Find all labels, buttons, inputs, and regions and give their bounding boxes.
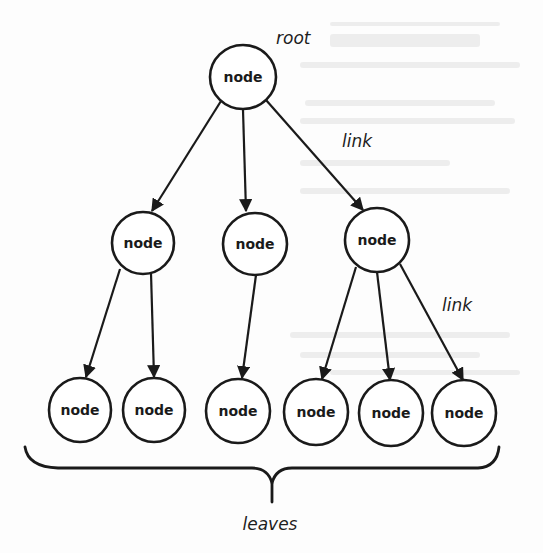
node-label: node: [134, 402, 173, 418]
node-label: node: [223, 69, 262, 85]
diagram-page: node node node node node node node: [0, 0, 543, 553]
edge-root-to-mid-2: [243, 110, 246, 211]
node-leaf-5: node: [359, 380, 423, 446]
node-label: node: [218, 403, 257, 419]
edge-mid-3-to-leaf-5: [377, 272, 390, 380]
edge-mid-3-to-leaf-6: [400, 264, 463, 380]
node-mid-1: node: [112, 212, 174, 274]
link-annotation-upper: link: [342, 131, 373, 151]
node-mid-2: node: [223, 213, 287, 275]
leaves-brace: [25, 447, 499, 483]
edge-mid-2-to-leaf-3: [242, 275, 256, 378]
node-leaf-3: node: [206, 379, 270, 443]
node-leaf-1: node: [49, 378, 111, 442]
node-label: node: [444, 405, 483, 421]
node-label: node: [123, 235, 162, 251]
edge-mid-3-to-leaf-4: [322, 267, 356, 379]
tree-diagram: node node node node node node node: [0, 0, 543, 553]
edge-root-to-mid-1: [152, 101, 221, 211]
node-leaf-4: node: [284, 379, 348, 445]
node-label: node: [296, 404, 335, 420]
edge-root-to-mid-3: [266, 100, 363, 210]
node-root: node: [210, 45, 276, 109]
node-mid-3: node: [345, 208, 409, 272]
edge-mid-1-to-leaf-1: [86, 269, 120, 377]
node-label: node: [235, 236, 274, 252]
node-leaf-6: node: [432, 380, 496, 446]
link-annotation-lower: link: [442, 295, 473, 315]
leaves-annotation: leaves: [243, 514, 298, 534]
node-label: node: [371, 405, 410, 421]
node-label: node: [357, 232, 396, 248]
node-label: node: [60, 402, 99, 418]
root-annotation: root: [276, 28, 312, 48]
edge-mid-1-to-leaf-2: [151, 273, 154, 377]
node-leaf-2: node: [123, 378, 185, 442]
